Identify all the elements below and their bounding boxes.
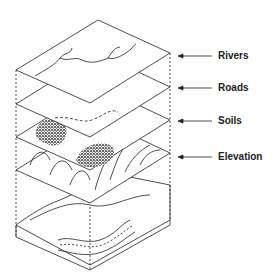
label-soils: Soils [218, 115, 242, 126]
gis-layer-diagram: Rivers Roads Soils Elevation [0, 0, 275, 279]
label-arrows [178, 54, 212, 159]
label-elevation: Elevation [218, 151, 262, 162]
layer-stack-illustration [0, 0, 275, 279]
label-roads: Roads [218, 82, 249, 93]
label-rivers: Rivers [218, 50, 249, 61]
